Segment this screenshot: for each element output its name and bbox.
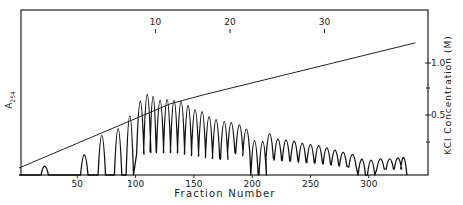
top-tick-label: 10	[150, 17, 162, 27]
absorbance-trace	[19, 95, 407, 176]
plot-frame	[21, 10, 428, 175]
y-axis-left-label: A254	[4, 91, 16, 109]
x-tick-label: 100	[127, 179, 144, 189]
x-axis-ticks: 50100150200250300	[72, 175, 378, 189]
kcl-gradient-line	[19, 43, 415, 168]
svg-text:A254: A254	[4, 91, 16, 109]
x-tick-label: 50	[72, 179, 84, 189]
x-axis-label: Fraction Number	[174, 188, 275, 199]
x-tick-label: 300	[360, 179, 377, 189]
elution-chart: 50100150200250300 102030 1.00.5 Fraction…	[0, 0, 463, 205]
y-axis-right-label: KCl Concentration (M)	[443, 35, 453, 154]
top-tick-label: 30	[319, 17, 331, 27]
svg-text:KCl Concentration (M): KCl Concentration (M)	[443, 35, 453, 154]
top-axis-ticks: 102030	[150, 17, 331, 33]
top-tick-label: 20	[224, 17, 236, 27]
x-tick-label: 250	[302, 179, 319, 189]
